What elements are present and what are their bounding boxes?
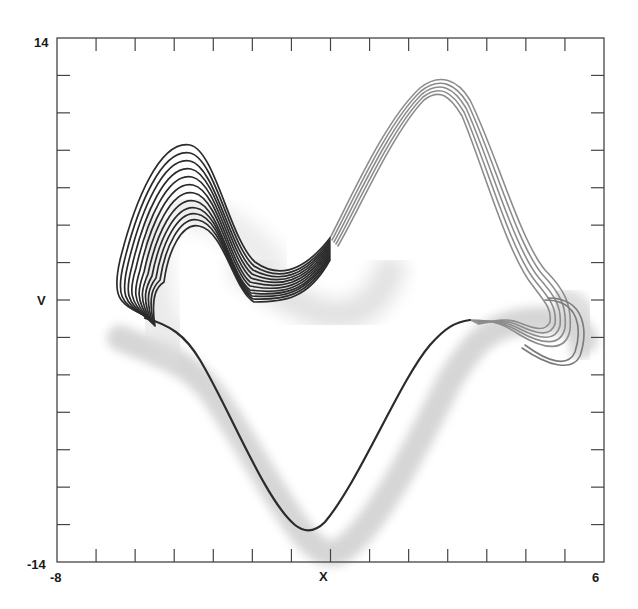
probability-cloud (120, 210, 585, 553)
x-axis-label: X (319, 569, 328, 584)
phase-plot: 14 -14 -8 6 X V (0, 0, 638, 609)
x-min-label: -8 (50, 570, 62, 585)
x-max-label: 6 (592, 570, 599, 585)
y-max-label: 14 (34, 35, 49, 50)
y-axis-label: V (37, 293, 46, 308)
y-min-label: -14 (27, 557, 47, 572)
